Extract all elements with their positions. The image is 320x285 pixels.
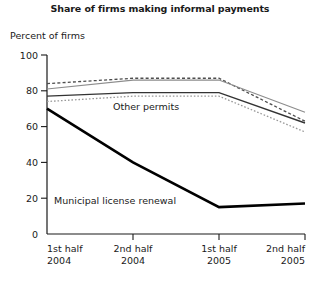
y-tick-100: 100 [20,50,38,61]
y-tick-80: 80 [26,85,38,96]
y-tick-60: 60 [26,121,38,132]
y-tick-20: 20 [26,193,38,204]
x-axis-tick-labels: 1st half 2004 2nd half 2004 1st half 200… [47,243,306,266]
series-line-municipal-license-renewal [47,109,305,207]
x-tick-0-line1: 1st half [47,243,83,254]
x-tick-1-line1: 2nd half [114,243,154,254]
annotation-municipal-license-renewal: Municipal license renewal [54,195,176,206]
x-axis-ticks [133,234,305,240]
y-axis-tick-labels: 100 80 60 40 20 0 [20,50,38,240]
x-tick-0-line2: 2004 [47,255,71,266]
x-tick-1-line2: 2004 [121,255,145,266]
y-axis-ticks [41,55,47,198]
x-tick-3-line1: 2nd half [266,243,306,254]
plot-area: 100 80 60 40 20 0 1st half 2004 2nd half… [0,0,320,285]
x-tick-2-line1: 1st half [201,243,237,254]
y-tick-40: 40 [26,157,38,168]
y-tick-0: 0 [32,229,38,240]
chart-container: Share of firms making informal payments … [0,0,320,285]
x-tick-2-line2: 2005 [207,255,231,266]
annotation-other-permits: Other permits [113,101,179,112]
x-tick-3-line2: 2005 [281,255,305,266]
